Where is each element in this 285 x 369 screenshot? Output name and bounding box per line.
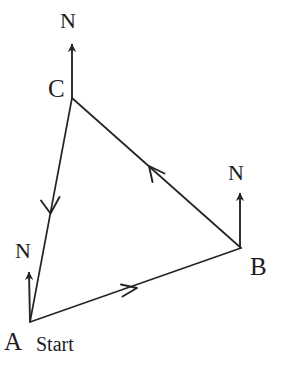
- north-arrow-at-a: [29, 272, 30, 322]
- north-label-at-a: N: [15, 240, 31, 262]
- start-label: Start: [36, 334, 74, 354]
- north-label-at-b: N: [228, 162, 244, 184]
- vertex-label-b: B: [250, 254, 267, 279]
- diagram-canvas: A B C Start N N N: [0, 0, 285, 369]
- vertex-label-c: C: [48, 76, 65, 101]
- vertex-label-a: A: [4, 329, 22, 354]
- edge-a-to-b: [30, 248, 241, 322]
- edge-b-to-c: [72, 98, 241, 248]
- edge-direction-arrows: [41, 166, 165, 297]
- edge-c-to-a: [30, 98, 72, 322]
- direction-arrow-a-to-b: [121, 285, 137, 297]
- north-label-at-c: N: [60, 10, 76, 32]
